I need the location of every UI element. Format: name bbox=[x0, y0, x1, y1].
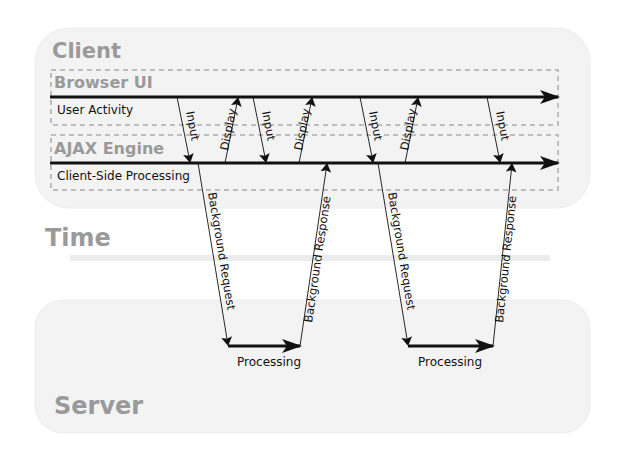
client-side-processing-label: Client-Side Processing bbox=[57, 169, 190, 183]
browser-ui-label: Browser UI bbox=[54, 73, 153, 92]
client-label: Client bbox=[52, 39, 121, 63]
time-label: Time bbox=[45, 224, 111, 252]
time-region: Time bbox=[45, 224, 550, 261]
svg-text:Background Request: Background Request bbox=[385, 191, 418, 311]
server-label: Server bbox=[54, 392, 143, 420]
ajax-diagram: Client Browser UI User Activity AJAX Eng… bbox=[0, 0, 620, 458]
svg-text:Processing: Processing bbox=[237, 355, 301, 369]
ajax-engine-label: AJAX Engine bbox=[54, 139, 164, 158]
svg-text:Background Request: Background Request bbox=[205, 191, 238, 311]
svg-text:Processing: Processing bbox=[418, 355, 482, 369]
user-activity-label: User Activity bbox=[57, 103, 133, 117]
